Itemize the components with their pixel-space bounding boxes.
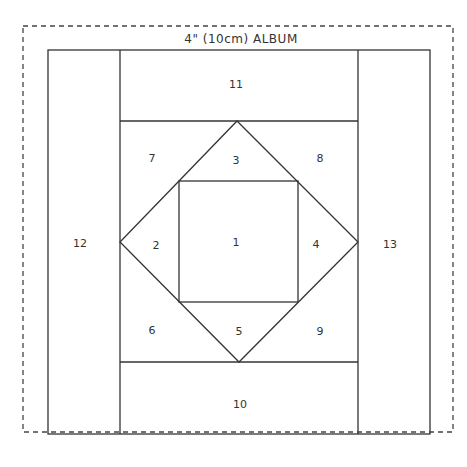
piece-label-5: 5 bbox=[236, 325, 243, 338]
piece-label-9: 9 bbox=[317, 325, 324, 338]
piece-label-11: 11 bbox=[229, 78, 243, 91]
piece-label-13: 13 bbox=[383, 238, 397, 251]
block-title: 4" (10cm) ALBUM bbox=[184, 32, 297, 46]
piece-label-2: 2 bbox=[153, 239, 160, 252]
piece-label-8: 8 bbox=[317, 152, 324, 165]
piece-label-7: 7 bbox=[149, 152, 156, 165]
piece-label-3: 3 bbox=[233, 154, 240, 167]
piece-label-12: 12 bbox=[73, 237, 87, 250]
piece-label-4: 4 bbox=[313, 238, 320, 251]
piece-label-10: 10 bbox=[233, 398, 247, 411]
piece-label-1: 1 bbox=[233, 236, 240, 249]
piece-label-6: 6 bbox=[149, 324, 156, 337]
